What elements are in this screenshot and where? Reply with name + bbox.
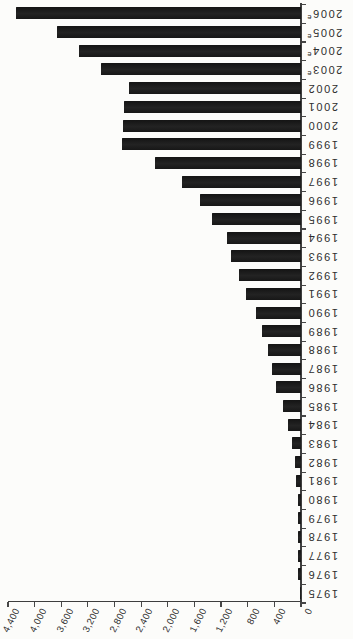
- bar-1980: [298, 494, 301, 506]
- bar-1997: [182, 176, 301, 188]
- category-tick: [302, 98, 307, 99]
- year-label-text: 1981: [307, 474, 338, 487]
- value-tick-label: 4,400: [0, 606, 22, 634]
- year-label-1977: 1977: [307, 549, 338, 562]
- year-label-text: 1985: [307, 400, 338, 413]
- year-label-text: 1989: [307, 325, 338, 338]
- category-tick: [302, 378, 307, 379]
- year-label-1989: 1989: [307, 325, 338, 338]
- category-tick: [302, 210, 307, 211]
- year-label-2006: 2006e: [307, 7, 342, 20]
- year-label-text: 1992: [307, 269, 338, 282]
- value-tick-label: 3,200: [80, 606, 102, 634]
- year-label-2004: 2004e: [307, 44, 342, 57]
- year-label-1984: 1984: [307, 418, 338, 431]
- category-tick: [302, 546, 307, 547]
- category-tick: [302, 602, 307, 603]
- bar-1986: [276, 381, 301, 393]
- value-tick: [247, 602, 248, 607]
- year-label-1985: 1985: [307, 400, 338, 413]
- category-tick: [302, 584, 307, 585]
- bar-1981: [296, 475, 301, 487]
- category-tick: [302, 397, 307, 398]
- bar-1995: [212, 213, 301, 225]
- bar-2004: [79, 45, 301, 57]
- estimate-superscript: e: [307, 31, 311, 40]
- bar-1990: [256, 307, 301, 319]
- category-tick: [302, 490, 307, 491]
- category-tick: [302, 472, 307, 473]
- value-tick: [300, 602, 301, 607]
- year-label-text: 1998: [307, 156, 338, 169]
- year-label-1975: 1975: [307, 587, 338, 600]
- year-label-1999: 1999: [307, 138, 338, 151]
- year-label-1997: 1997: [307, 175, 338, 188]
- value-tick: [274, 602, 275, 607]
- value-tick: [61, 602, 62, 607]
- category-tick: [302, 565, 307, 566]
- year-label-1987: 1987: [307, 362, 338, 375]
- year-label-1994: 1994: [307, 231, 338, 244]
- year-label-1991: 1991: [307, 287, 338, 300]
- year-label-text: 1982: [307, 456, 338, 469]
- bar-2001: [124, 101, 301, 113]
- bar-2000: [123, 120, 301, 132]
- year-label-2001: 2001: [307, 100, 338, 113]
- year-label-2005: 2005e: [307, 26, 342, 39]
- category-tick: [302, 528, 307, 529]
- value-tick-label: 800: [244, 606, 262, 626]
- scanned-chart-page: 2006e2005e2004e2003e20022001200019991998…: [0, 0, 353, 639]
- year-label-text: 2000: [307, 119, 338, 132]
- year-label-text: 2005e: [307, 26, 342, 39]
- category-tick: [302, 453, 307, 454]
- category-tick: [302, 228, 307, 229]
- bar-1979: [298, 512, 301, 524]
- value-tick-label: 1,200: [213, 606, 235, 634]
- year-label-text: 1983: [307, 437, 338, 450]
- value-axis-line: [8, 601, 303, 603]
- category-tick: [302, 509, 307, 510]
- value-tick-label: 4,000: [27, 606, 49, 634]
- bar-1996: [200, 194, 301, 206]
- bar-2002: [129, 82, 301, 94]
- year-label-2002: 2002: [307, 82, 338, 95]
- year-label-text: 1986: [307, 381, 338, 394]
- estimate-superscript: e: [307, 13, 311, 22]
- value-tick: [114, 602, 115, 607]
- year-label-1992: 1992: [307, 269, 338, 282]
- category-tick: [302, 247, 307, 248]
- year-label-text: 1994: [307, 231, 338, 244]
- value-tick-label: 0: [302, 606, 314, 616]
- year-label-1995: 1995: [307, 213, 338, 226]
- year-label-1978: 1978: [307, 530, 338, 543]
- value-tick-label: 2,400: [133, 606, 155, 634]
- year-label-text: 1978: [307, 530, 338, 543]
- value-tick: [141, 602, 142, 607]
- year-label-text: 2004e: [307, 44, 342, 57]
- year-label-1976: 1976: [307, 568, 338, 581]
- category-tick: [302, 341, 307, 342]
- year-label-text: 1988: [307, 343, 338, 356]
- estimate-superscript: e: [307, 69, 311, 78]
- year-label-text: 1984: [307, 418, 338, 431]
- year-label-text: 1999: [307, 138, 338, 151]
- year-label-1981: 1981: [307, 474, 338, 487]
- bar-1978: [298, 531, 301, 543]
- bar-1991: [246, 288, 301, 300]
- bar-1998: [155, 157, 301, 169]
- year-label-1990: 1990: [307, 306, 338, 319]
- year-label-text: 1977: [307, 549, 338, 562]
- year-label-text: 2003e: [307, 63, 342, 76]
- category-tick: [302, 172, 307, 173]
- bar-1992: [239, 269, 301, 281]
- year-label-1986: 1986: [307, 381, 338, 394]
- rotated-bar-chart: 2006e2005e2004e2003e20022001200019991998…: [0, 0, 353, 639]
- bar-1999: [122, 138, 301, 150]
- year-label-text: 1997: [307, 175, 338, 188]
- estimate-superscript: e: [307, 50, 311, 59]
- year-label-text: 1993: [307, 250, 338, 263]
- value-tick: [87, 602, 88, 607]
- bar-1984: [288, 419, 301, 431]
- bar-1982: [295, 456, 301, 468]
- category-tick: [302, 116, 307, 117]
